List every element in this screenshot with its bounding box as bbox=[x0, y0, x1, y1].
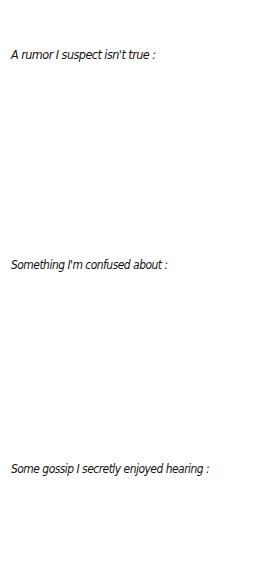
prompt-label-confused: Something I'm confused about : bbox=[11, 257, 168, 273]
prompt-section-rumor: A rumor I suspect isn't true : bbox=[0, 0, 263, 240]
response-area-gossip[interactable] bbox=[8, 485, 259, 577]
prompt-section-gossip: Some gossip I secretly enjoyed hearing : bbox=[0, 445, 263, 577]
prompt-section-confused: Something I'm confused about : bbox=[0, 240, 263, 445]
prompt-label-gossip: Some gossip I secretly enjoyed hearing : bbox=[11, 461, 209, 477]
response-area-rumor[interactable] bbox=[8, 70, 259, 239]
prompt-label-rumor: A rumor I suspect isn't true : bbox=[11, 47, 156, 63]
response-area-confused[interactable] bbox=[8, 280, 259, 444]
